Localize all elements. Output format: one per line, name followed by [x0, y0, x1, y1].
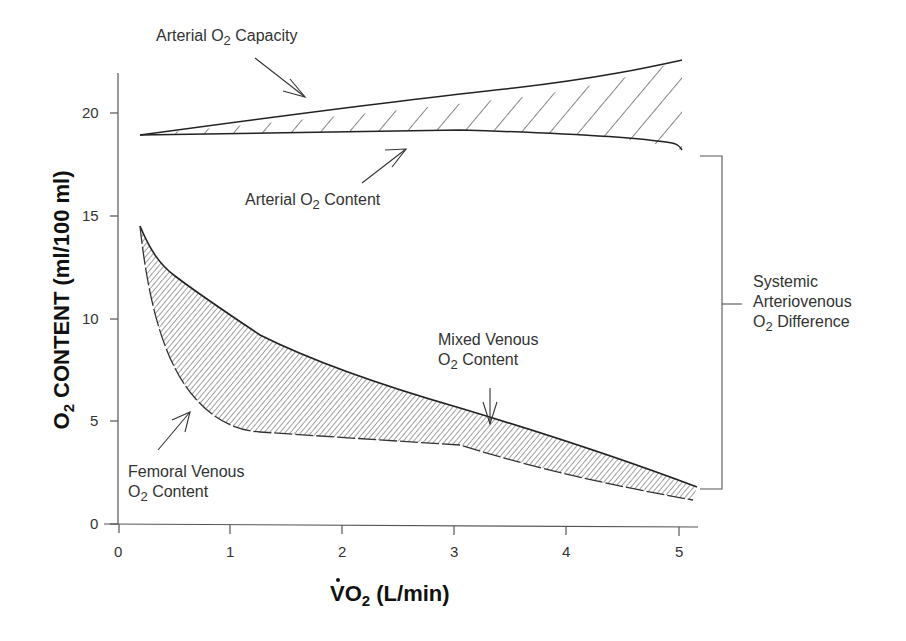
label-av-difference: Systemic Arteriovenous O2 Difference	[753, 272, 852, 332]
label-femoral-venous: Femoral Venous O2 Content	[128, 462, 245, 502]
y-tick-10: 10	[82, 310, 99, 327]
av-difference-bracket	[700, 156, 742, 489]
x-tick-0: 0	[114, 543, 122, 560]
venous-band	[140, 226, 697, 500]
x-tick-3: 3	[450, 543, 458, 560]
x-tick-1: 1	[226, 543, 234, 560]
y-axis	[110, 73, 118, 524]
y-tick-0: 0	[90, 515, 98, 532]
x-tick-2: 2	[338, 543, 346, 560]
y-tick-5: 5	[90, 412, 98, 429]
label-mixed-venous: Mixed Venous O2 Content	[438, 330, 539, 370]
label-arterial-capacity: Arterial O2 Capacity	[156, 26, 298, 46]
y-axis-title: O2 CONTENT (ml/100 ml)	[49, 171, 75, 430]
x-axis	[104, 524, 698, 536]
x-tick-4: 4	[562, 543, 570, 560]
label-arterial-content: Arterial O2 Content	[245, 190, 380, 210]
x-axis-title: VO2 (L/min)	[330, 581, 450, 607]
x-tick-5: 5	[675, 543, 683, 560]
y-tick-20: 20	[82, 104, 99, 121]
y-tick-15: 15	[82, 207, 99, 224]
